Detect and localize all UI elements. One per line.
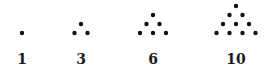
dot — [151, 13, 155, 17]
dot — [214, 31, 218, 35]
dot — [144, 22, 148, 26]
figure-label: 1 — [17, 51, 27, 67]
dot — [79, 22, 83, 26]
dot — [72, 31, 76, 35]
dot — [247, 22, 251, 26]
dot — [240, 13, 244, 17]
triangle-figure-10: 10 — [214, 4, 257, 67]
dot — [234, 4, 238, 8]
dot — [164, 31, 168, 35]
dot — [221, 22, 225, 26]
triangle-figure-3: 3 — [72, 22, 89, 67]
dot — [234, 22, 238, 26]
triangular-numbers-diagram: 13610 — [0, 0, 275, 72]
dot — [151, 31, 155, 35]
dot — [20, 31, 24, 35]
dot — [227, 13, 231, 17]
triangle-figure-6: 6 — [138, 13, 168, 67]
dot — [138, 31, 142, 35]
figure-label: 10 — [226, 51, 246, 67]
dot — [85, 31, 89, 35]
figure-label: 3 — [76, 51, 86, 67]
triangle-figure-1: 1 — [17, 31, 27, 67]
dot — [240, 31, 244, 35]
dot — [227, 31, 231, 35]
dot — [253, 31, 257, 35]
dot — [157, 22, 161, 26]
figure-label: 6 — [148, 51, 158, 67]
